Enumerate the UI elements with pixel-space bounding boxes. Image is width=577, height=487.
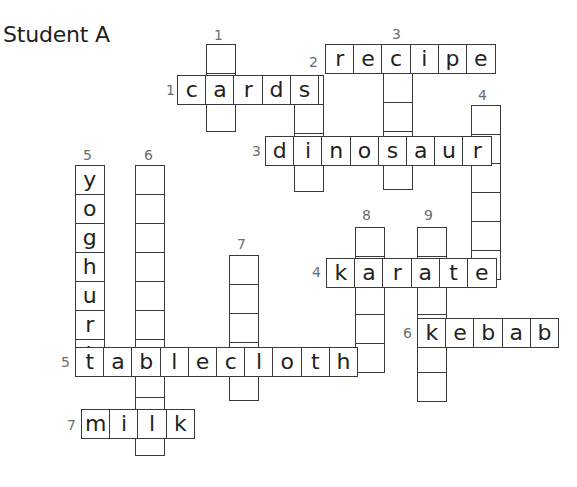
crossword-cell[interactable]: a [205, 75, 235, 105]
crossword-cell[interactable]: c [177, 75, 207, 105]
across-words: cards1recipe2dinosaur3karate4tablecloth5… [0, 0, 577, 487]
crossword-cell[interactable]: i [293, 136, 323, 166]
crossword-cell[interactable]: a [411, 258, 441, 288]
crossword-cell[interactable]: t [75, 347, 105, 377]
crossword-cell[interactable]: e [188, 347, 218, 377]
crossword-cell[interactable]: d [265, 136, 295, 166]
crossword-cell[interactable]: i [410, 44, 440, 74]
crossword-cell[interactable]: r [325, 44, 355, 74]
crossword-cell[interactable]: a [103, 347, 133, 377]
across-clue-number: 3 [252, 144, 261, 158]
crossword-cell[interactable]: n [321, 136, 351, 166]
crossword-cell[interactable]: c [216, 347, 246, 377]
crossword-cell[interactable]: b [131, 347, 161, 377]
across-word-4: karate [326, 258, 495, 288]
crossword-cell[interactable]: k [166, 409, 196, 439]
across-clue-number: 2 [309, 55, 318, 69]
crossword-cell[interactable]: b [530, 318, 560, 348]
crossword-cell[interactable]: e [466, 44, 496, 74]
crossword-cell[interactable]: u [434, 136, 464, 166]
across-word-2: recipe [325, 44, 494, 74]
crossword-cell[interactable]: e [445, 318, 475, 348]
crossword-cell[interactable]: r [462, 136, 492, 166]
crossword-cell[interactable]: e [353, 44, 383, 74]
crossword-cell[interactable]: p [438, 44, 468, 74]
across-word-1: cards [177, 75, 318, 105]
crossword-cell[interactable]: r [382, 258, 412, 288]
crossword-cell[interactable]: s [290, 75, 320, 105]
crossword-cell[interactable]: k [417, 318, 447, 348]
across-word-7: milk [81, 409, 194, 439]
crossword-cell[interactable]: r [233, 75, 263, 105]
crossword-cell[interactable]: a [406, 136, 436, 166]
across-clue-number: 5 [61, 355, 70, 369]
crossword-cell[interactable]: a [502, 318, 532, 348]
crossword-cell[interactable]: l [244, 347, 274, 377]
crossword-cell[interactable]: c [381, 44, 411, 74]
crossword-cell[interactable]: b [473, 318, 503, 348]
crossword-cell[interactable]: d [262, 75, 292, 105]
crossword-cell[interactable]: e [467, 258, 497, 288]
across-clue-number: 4 [312, 265, 321, 279]
crossword-cell[interactable]: o [272, 347, 302, 377]
crossword-cell[interactable]: m [81, 409, 111, 439]
across-word-5: tablecloth [75, 347, 357, 377]
across-clue-number: 1 [166, 83, 175, 97]
crossword-cell[interactable]: k [326, 258, 356, 288]
crossword-cell[interactable]: i [109, 409, 139, 439]
across-clue-number: 6 [403, 326, 412, 340]
crossword-cell[interactable]: l [137, 409, 167, 439]
across-clue-number: 7 [67, 418, 76, 432]
crossword-cell[interactable]: h [329, 347, 359, 377]
crossword-cell[interactable]: a [354, 258, 384, 288]
crossword-cell[interactable]: o [350, 136, 380, 166]
crossword-cell[interactable]: t [439, 258, 469, 288]
across-word-6: kebab [417, 318, 558, 348]
crossword-cell[interactable]: s [378, 136, 408, 166]
across-word-3: dinosaur [265, 136, 491, 166]
crossword-cell[interactable]: t [301, 347, 331, 377]
crossword-cell[interactable]: l [160, 347, 190, 377]
